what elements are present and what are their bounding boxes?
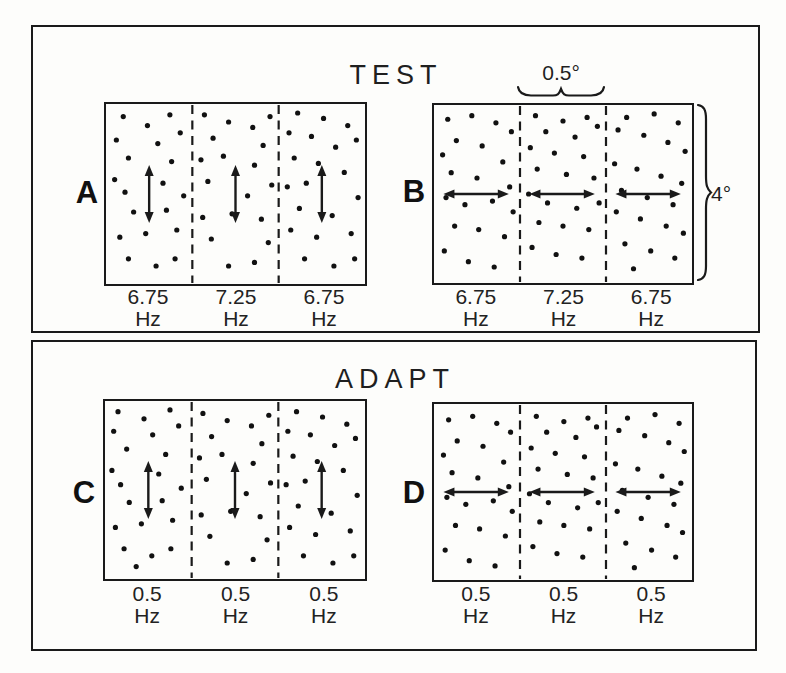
dot bbox=[285, 429, 290, 434]
dot bbox=[682, 449, 687, 454]
dot bbox=[509, 129, 514, 134]
dot bbox=[202, 112, 207, 117]
adapt-section-title: ADAPT bbox=[31, 364, 759, 395]
dot bbox=[301, 553, 306, 558]
dot bbox=[503, 533, 508, 538]
horizontal-motion-arrow-icon bbox=[529, 488, 594, 497]
dot bbox=[122, 190, 127, 195]
dot bbox=[552, 150, 557, 155]
dot bbox=[210, 136, 215, 141]
dot bbox=[670, 202, 675, 207]
dot bbox=[597, 200, 602, 205]
dot bbox=[635, 467, 640, 472]
dot bbox=[355, 493, 360, 498]
dot bbox=[594, 424, 599, 429]
dot bbox=[666, 440, 671, 445]
dot bbox=[160, 181, 165, 186]
frequency-unit: Hz bbox=[607, 308, 695, 330]
dot bbox=[672, 255, 677, 260]
dot bbox=[561, 419, 566, 424]
dot bbox=[349, 231, 354, 236]
dot bbox=[115, 409, 120, 414]
dot bbox=[673, 555, 678, 560]
dot bbox=[477, 526, 482, 531]
dot bbox=[677, 421, 682, 426]
dot bbox=[145, 123, 150, 128]
dot bbox=[638, 216, 643, 221]
dot bbox=[529, 245, 534, 250]
dot bbox=[679, 181, 684, 186]
dot bbox=[174, 227, 179, 232]
dot bbox=[443, 547, 448, 552]
dot bbox=[446, 417, 451, 422]
dot bbox=[149, 553, 154, 558]
strip-frequency-label: 0.5Hz bbox=[432, 583, 520, 627]
dot bbox=[613, 461, 618, 466]
dot bbox=[553, 451, 558, 456]
dot bbox=[596, 500, 601, 505]
dot bbox=[316, 161, 321, 166]
dot bbox=[164, 208, 169, 213]
dot bbox=[469, 113, 474, 118]
panel-d-canvas bbox=[434, 404, 692, 580]
vertical-motion-arrow-icon bbox=[317, 165, 326, 223]
dot bbox=[355, 195, 360, 200]
frequency-value: 6.75 bbox=[432, 286, 520, 308]
dot bbox=[168, 546, 173, 551]
dot bbox=[348, 528, 353, 533]
dot bbox=[466, 259, 471, 264]
dot bbox=[286, 130, 291, 135]
dot bbox=[266, 413, 271, 418]
dot bbox=[586, 227, 591, 232]
dot bbox=[537, 519, 542, 524]
frequency-value: 0.5 bbox=[432, 583, 520, 605]
strip-frequency-label: 7.25Hz bbox=[192, 286, 280, 330]
dot bbox=[179, 486, 184, 491]
dot bbox=[153, 263, 158, 268]
dot bbox=[251, 557, 256, 562]
frequency-value: 7.25 bbox=[192, 286, 280, 308]
frequency-unit: Hz bbox=[432, 308, 520, 330]
dot bbox=[141, 416, 146, 421]
panel-d-letter: D bbox=[399, 477, 429, 508]
strip-frequency-label: 0.5Hz bbox=[607, 583, 695, 627]
frequency-unit: Hz bbox=[191, 605, 279, 627]
dot bbox=[564, 172, 569, 177]
dot bbox=[616, 428, 621, 433]
dot bbox=[508, 430, 513, 435]
dot bbox=[258, 514, 263, 519]
dot bbox=[170, 518, 175, 523]
dot bbox=[445, 117, 450, 122]
dot bbox=[543, 129, 548, 134]
dot bbox=[118, 482, 123, 487]
dot bbox=[314, 235, 319, 240]
dot bbox=[249, 423, 254, 428]
dot bbox=[344, 422, 349, 427]
panel-c bbox=[103, 399, 367, 581]
dot bbox=[502, 234, 507, 239]
dot bbox=[492, 563, 497, 568]
dot bbox=[332, 443, 337, 448]
strip-frequency-label: 6.75Hz bbox=[607, 286, 695, 330]
horizontal-motion-arrow-icon bbox=[529, 190, 594, 199]
dot bbox=[333, 145, 338, 150]
dot bbox=[353, 436, 358, 441]
dot bbox=[121, 546, 126, 551]
panel-b-freq-labels: 6.75Hz7.25Hz6.75Hz bbox=[432, 286, 695, 330]
vertical-motion-arrow-icon bbox=[231, 461, 240, 519]
frequency-unit: Hz bbox=[280, 308, 368, 330]
frequency-unit: Hz bbox=[192, 308, 280, 330]
dot bbox=[493, 120, 498, 125]
dot bbox=[642, 433, 647, 438]
dot bbox=[114, 137, 119, 142]
dot bbox=[219, 452, 224, 457]
dot bbox=[127, 500, 132, 505]
dot bbox=[444, 495, 449, 500]
panel-height-label: 4° bbox=[711, 182, 731, 206]
dot bbox=[671, 502, 676, 507]
dot bbox=[591, 175, 596, 180]
dot bbox=[528, 145, 533, 150]
dot bbox=[681, 231, 686, 236]
dot bbox=[595, 124, 600, 129]
dot bbox=[109, 468, 114, 473]
